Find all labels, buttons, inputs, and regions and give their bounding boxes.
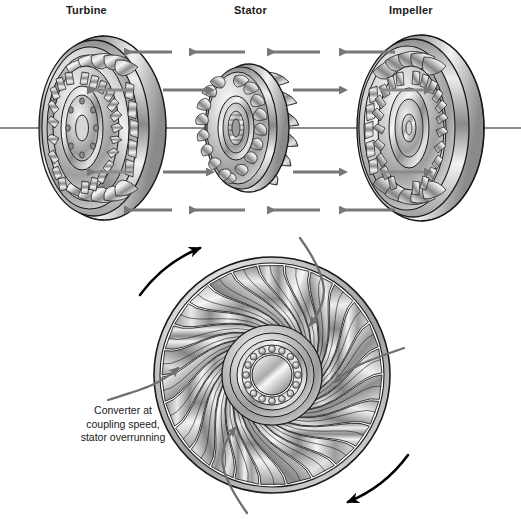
torque-converter-front-view-icon xyxy=(154,257,390,493)
component-label-turbine: Turbine xyxy=(66,4,107,16)
bearing-ball xyxy=(245,362,252,369)
bearing-ball xyxy=(293,362,300,369)
bearing-ball xyxy=(269,398,276,405)
bearing-ball xyxy=(245,382,252,389)
bearing-ball xyxy=(250,390,257,397)
bearing-ball xyxy=(269,346,276,353)
torque-converter-diagram: Turbine Stator Impeller Converter at cou… xyxy=(0,0,521,519)
bearing-ball xyxy=(250,353,257,360)
component-label-impeller: Impeller xyxy=(389,4,433,16)
bearing-ball xyxy=(259,396,266,403)
bearing-ball xyxy=(295,372,302,379)
figure-caption: Converter at coupling speed, stator over… xyxy=(62,404,184,445)
bearing-ball xyxy=(279,396,286,403)
impeller-wheel-icon xyxy=(357,35,484,221)
stator-wheel-icon xyxy=(196,64,299,192)
component-label-stator: Stator xyxy=(234,4,267,16)
rotation-arrow-clockwise-top-icon xyxy=(140,248,200,295)
bearing-ball xyxy=(279,348,286,355)
caption-line-1: Converter at xyxy=(62,404,184,418)
bearing-ball xyxy=(259,348,266,355)
bearing-ball xyxy=(287,353,294,360)
rotation-arrow-clockwise-bottom-icon xyxy=(348,455,408,502)
bearing-ball xyxy=(287,390,294,397)
caption-line-2: coupling speed, xyxy=(62,418,184,432)
bearing-ball xyxy=(293,382,300,389)
bearing-ball xyxy=(243,372,250,379)
caption-line-3: stator overrunning xyxy=(62,431,184,445)
turbine-wheel-icon xyxy=(39,36,166,220)
